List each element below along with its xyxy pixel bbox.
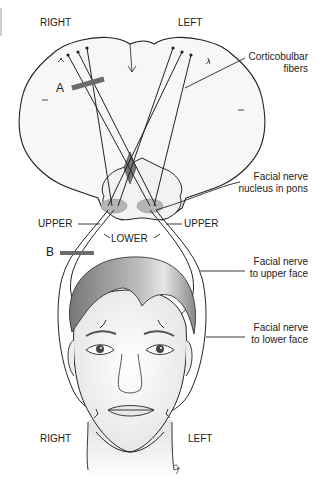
label-bottom-left-side: LEFT [188, 433, 212, 445]
label-lesion-a: A [56, 82, 64, 94]
label-lesion-b: B [46, 246, 54, 258]
label-upper-face-nerve: Facial nerve to upper face [236, 256, 308, 280]
label-nucleus-line1: Facial nerve [230, 171, 308, 183]
label-corticobulbar-line2: fibers [244, 63, 308, 75]
label-top-left-side: LEFT [178, 17, 202, 29]
artist-signature [174, 465, 180, 474]
facial-nucleus-right [101, 199, 127, 213]
label-corticobulbar-line1: Corticobulbar [244, 51, 308, 63]
label-lower-face-line1: Facial nerve [236, 322, 308, 334]
ear-right [68, 340, 74, 376]
label-upper-face-line1: Facial nerve [236, 256, 308, 268]
label-bottom-right-side: RIGHT [40, 433, 71, 445]
label-nucleus-line2: nucleus in pons [230, 183, 308, 195]
label-facial-nucleus: Facial nerve nucleus in pons [230, 171, 308, 195]
label-lower-face-nerve: Facial nerve to lower face [236, 322, 308, 346]
label-upper-right: UPPER [38, 218, 72, 230]
label-lower-face-line2: to lower face [236, 334, 308, 346]
label-top-right-side: RIGHT [40, 17, 71, 29]
ear-left [186, 340, 192, 376]
label-upper-face-line2: to upper face [236, 268, 308, 280]
label-lower: LOWER [111, 233, 148, 245]
label-corticobulbar: Corticobulbar fibers [244, 51, 308, 75]
label-upper-left: UPPER [184, 218, 218, 230]
